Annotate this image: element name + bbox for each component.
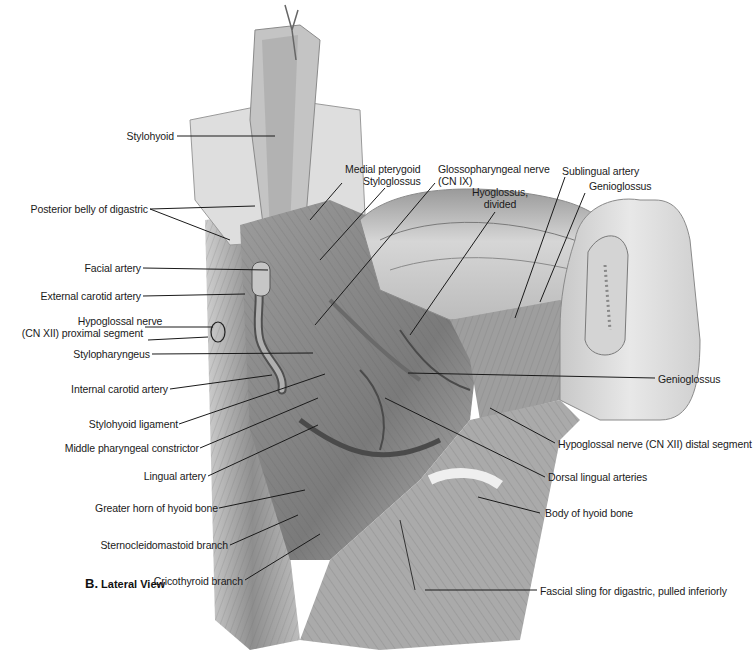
label-genioglossus-right: Genioglossus [658,373,720,385]
label-medial-pterygoid: Medial pterygoid [345,163,420,175]
label-sublingual-artery: Sublingual artery [562,165,639,177]
label-cricothyroid-branch: Cricothyroid branch [154,575,243,587]
label-hypoglossal-distal: Hypoglossal nerve (CN XII) distal segmen… [558,438,752,450]
figure-caption: B. Lateral View [85,576,165,591]
label-body-hyoid: Body of hyoid bone [545,507,633,519]
label-lingual-artery: Lingual artery [144,470,206,482]
label-styloglossus: Styloglossus [363,175,421,187]
label-glossopharyngeal-line1: Glossopharyngeal nerve [438,163,550,175]
caption-text: Lateral View [101,578,165,590]
label-posterior-belly-digastric: Posterior belly of digastric [31,203,148,215]
label-stylopharyngeus: Stylopharyngeus [73,348,150,360]
label-genioglossus-top: Genioglossus [589,180,651,192]
label-middle-pharyngeal-constrictor: Middle pharyngeal constrictor [65,442,199,454]
label-internal-carotid-artery: Internal carotid artery [71,383,168,395]
label-hypoglossal-proximal-line2: (CN XII) proximal segment [22,327,143,339]
label-dorsal-lingual-arteries: Dorsal lingual arteries [548,471,647,483]
label-stylohyoid: Stylohyoid [127,130,174,142]
mandible-section [560,199,700,420]
label-greater-horn-hyoid: Greater horn of hyoid bone [95,502,218,514]
label-hypoglossal-proximal-line1: Hypoglossal nerve [70,315,170,327]
label-stylohyoid-ligament: Stylohyoid ligament [89,418,178,430]
label-hyoglossus-line2: divided [465,198,535,210]
label-fascial-sling: Fascial sling for digastric, pulled infe… [540,585,727,597]
label-sternocleidomastoid-branch: Sternocleidomastoid branch [100,539,228,551]
label-facial-artery: Facial artery [85,262,141,274]
label-external-carotid-artery: External carotid artery [41,290,141,302]
caption-letter: B. [85,576,98,591]
label-hyoglossus-line1: Hyoglossus, [465,186,535,198]
